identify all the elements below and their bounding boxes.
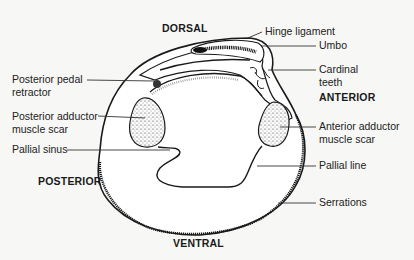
label-line: Pallial sinus <box>12 143 67 156</box>
label-serrations: Serrations <box>319 196 367 209</box>
label-line: Serrations <box>319 196 367 209</box>
label-line: Posterior pedal <box>12 73 83 86</box>
label-line: Pallial line <box>319 159 366 172</box>
label-line: Posterior adductor <box>12 110 98 123</box>
label-line: teeth <box>319 76 358 89</box>
direction-dorsal: DORSAL <box>162 22 208 34</box>
label-pallial-sinus: Pallial sinus <box>12 143 67 156</box>
direction-anterior: ANTERIOR <box>319 91 375 103</box>
direction-ventral: VENTRAL <box>173 237 224 249</box>
label-posterior-adductor-muscle-scar: Posterior adductor muscle scar <box>12 110 98 136</box>
label-line: Anterior adductor <box>319 120 400 133</box>
posterior-pedal-retractor-scar <box>153 80 161 88</box>
label-line: Hinge ligament <box>265 25 335 38</box>
direction-posterior: POSTERIOR <box>38 175 102 187</box>
label-pallial-line: Pallial line <box>319 159 366 172</box>
label-line: retractor <box>12 86 83 99</box>
leader-hinge-ligament <box>248 32 262 38</box>
label-umbo: Umbo <box>319 39 347 52</box>
label-line: Umbo <box>319 39 347 52</box>
label-line: muscle scar <box>12 123 98 136</box>
label-line: Cardinal <box>319 63 358 76</box>
label-anterior-adductor-muscle-scar: Anterior adductor muscle scar <box>319 120 400 146</box>
label-posterior-pedal-retractor: Posterior pedal retractor <box>12 73 83 99</box>
label-cardinal-teeth: Cardinal teeth <box>319 63 358 89</box>
label-hinge-ligament: Hinge ligament <box>265 25 335 38</box>
label-line: muscle scar <box>319 133 400 146</box>
